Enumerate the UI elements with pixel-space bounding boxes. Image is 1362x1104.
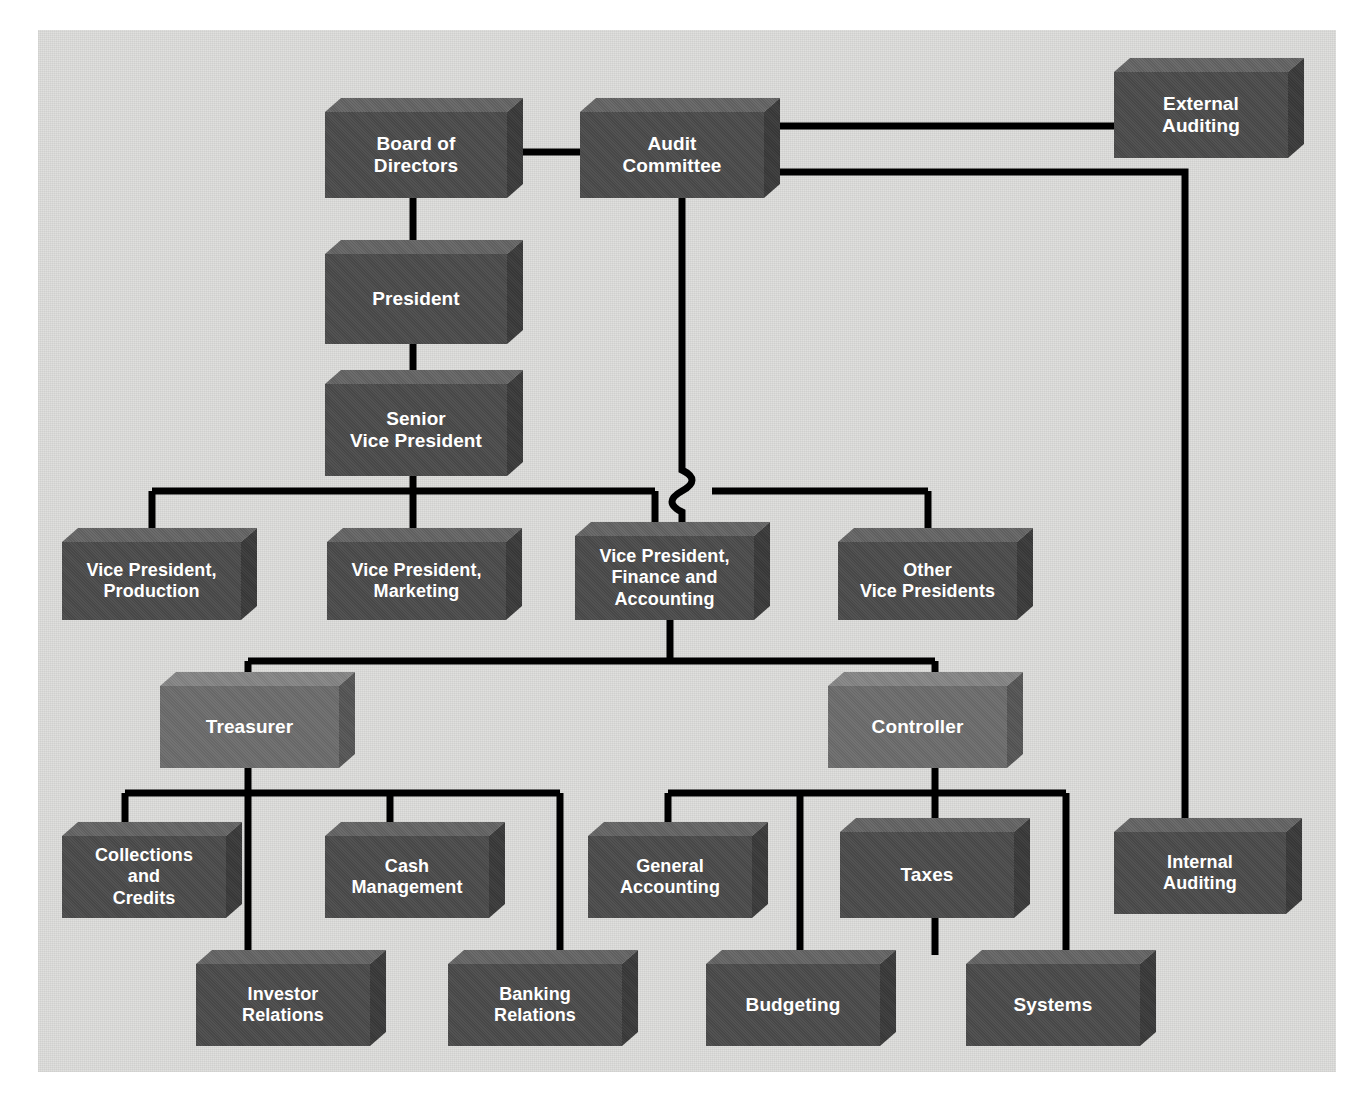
- box-top-face: [580, 98, 780, 112]
- box-side-face: [622, 950, 638, 1046]
- box-side-face: [507, 98, 523, 198]
- node-label: CollectionsandCredits: [62, 836, 226, 918]
- node-general-accounting[interactable]: GeneralAccounting: [588, 822, 768, 918]
- node-budgeting[interactable]: Budgeting: [706, 950, 896, 1046]
- box-side-face: [489, 822, 505, 918]
- node-internal-auditing[interactable]: InternalAuditing: [1114, 818, 1302, 914]
- box-top-face: [62, 528, 257, 542]
- node-label: SeniorVice President: [325, 384, 507, 476]
- box-side-face: [1014, 818, 1030, 918]
- node-label: President: [325, 254, 507, 344]
- box-top-face: [1114, 58, 1304, 72]
- node-president[interactable]: President: [325, 240, 523, 344]
- node-label: Board ofDirectors: [325, 112, 507, 198]
- node-label: AuditCommittee: [580, 112, 764, 198]
- box-side-face: [752, 822, 768, 918]
- node-label: Vice President,Production: [62, 542, 241, 620]
- box-side-face: [507, 370, 523, 476]
- node-other-vice-presidents[interactable]: OtherVice Presidents: [838, 528, 1033, 620]
- node-label: Taxes: [840, 832, 1014, 918]
- box-top-face: [1114, 818, 1302, 832]
- node-label: OtherVice Presidents: [838, 542, 1017, 620]
- node-controller[interactable]: Controller: [828, 672, 1023, 768]
- box-top-face: [448, 950, 638, 964]
- box-top-face: [160, 672, 355, 686]
- node-label: ExternalAuditing: [1114, 72, 1288, 158]
- box-top-face: [327, 528, 522, 542]
- node-label: InternalAuditing: [1114, 832, 1286, 914]
- node-label: Treasurer: [160, 686, 339, 768]
- box-top-face: [196, 950, 386, 964]
- box-top-face: [62, 822, 242, 836]
- node-label: Vice President,Finance andAccounting: [575, 536, 754, 620]
- node-board-of-directors[interactable]: Board ofDirectors: [325, 98, 523, 198]
- node-collections-and-credits[interactable]: CollectionsandCredits: [62, 822, 242, 918]
- box-top-face: [325, 370, 523, 384]
- node-label: Controller: [828, 686, 1007, 768]
- box-top-face: [828, 672, 1023, 686]
- box-side-face: [1017, 528, 1033, 620]
- node-senior-vice-president[interactable]: SeniorVice President: [325, 370, 523, 476]
- node-vp-finance-accounting[interactable]: Vice President,Finance andAccounting: [575, 522, 770, 620]
- box-side-face: [754, 522, 770, 620]
- box-top-face: [575, 522, 770, 536]
- box-side-face: [241, 528, 257, 620]
- node-vp-marketing[interactable]: Vice President,Marketing: [327, 528, 522, 620]
- box-side-face: [226, 822, 242, 918]
- node-banking-relations[interactable]: BankingRelations: [448, 950, 638, 1046]
- box-side-face: [764, 98, 780, 198]
- box-top-face: [966, 950, 1156, 964]
- box-side-face: [370, 950, 386, 1046]
- box-top-face: [325, 240, 523, 254]
- box-side-face: [1288, 58, 1304, 158]
- node-label: Systems: [966, 964, 1140, 1046]
- node-external-auditing[interactable]: ExternalAuditing: [1114, 58, 1304, 158]
- node-label: GeneralAccounting: [588, 836, 752, 918]
- box-top-face: [706, 950, 896, 964]
- box-top-face: [325, 822, 505, 836]
- node-audit-committee[interactable]: AuditCommittee: [580, 98, 780, 198]
- node-investor-relations[interactable]: InvestorRelations: [196, 950, 386, 1046]
- node-systems[interactable]: Systems: [966, 950, 1156, 1046]
- node-taxes[interactable]: Taxes: [840, 818, 1030, 918]
- node-label: InvestorRelations: [196, 964, 370, 1046]
- node-cash-management[interactable]: CashManagement: [325, 822, 505, 918]
- box-side-face: [1007, 672, 1023, 768]
- box-top-face: [325, 98, 523, 112]
- org-chart-page: Board ofDirectors AuditCommittee Externa…: [0, 0, 1362, 1104]
- box-top-face: [588, 822, 768, 836]
- box-side-face: [1286, 818, 1302, 914]
- node-vp-production[interactable]: Vice President,Production: [62, 528, 257, 620]
- node-label: Budgeting: [706, 964, 880, 1046]
- node-label: Vice President,Marketing: [327, 542, 506, 620]
- node-label: CashManagement: [325, 836, 489, 918]
- box-side-face: [506, 528, 522, 620]
- box-top-face: [840, 818, 1030, 832]
- box-side-face: [339, 672, 355, 768]
- node-label: BankingRelations: [448, 964, 622, 1046]
- box-side-face: [1140, 950, 1156, 1046]
- box-top-face: [838, 528, 1033, 542]
- box-side-face: [880, 950, 896, 1046]
- box-side-face: [507, 240, 523, 344]
- node-treasurer[interactable]: Treasurer: [160, 672, 355, 768]
